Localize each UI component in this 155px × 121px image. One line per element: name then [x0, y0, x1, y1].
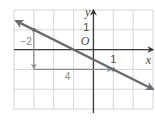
- labels-group: y x O 1 1 −2 4: [20, 5, 151, 82]
- run-label: 4: [65, 71, 71, 82]
- y-tick-label: 1: [83, 21, 89, 33]
- line-point: [111, 67, 115, 71]
- x-tick-label: 1: [110, 53, 116, 65]
- origin-label: O: [81, 34, 90, 48]
- y-axis-label: y: [84, 5, 91, 19]
- rise-label: −2: [20, 36, 32, 47]
- line-point: [32, 28, 36, 32]
- x-axis-label: x: [145, 53, 152, 67]
- coordinate-plane: y x O 1 1 −2 4: [0, 0, 155, 121]
